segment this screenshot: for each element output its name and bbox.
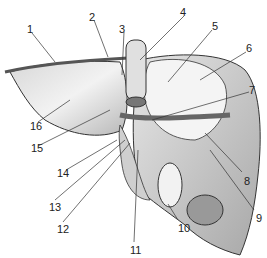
callout-3: 3 [119, 24, 125, 35]
callout-11: 11 [130, 245, 141, 256]
renal-impression [187, 195, 223, 225]
callout-10: 10 [178, 223, 190, 234]
liver-diagram: 1 2 3 4 5 6 7 8 9 10 11 12 13 14 15 16 [0, 0, 267, 258]
callout-8: 8 [244, 176, 250, 187]
callout-16: 16 [30, 121, 42, 132]
left-lobe [10, 61, 127, 135]
callout-9: 9 [256, 213, 262, 224]
callout-14: 14 [57, 168, 69, 179]
callout-15: 15 [31, 143, 43, 154]
callout-13: 13 [49, 202, 61, 213]
porta-hepatis [120, 115, 230, 118]
callout-5: 5 [212, 21, 218, 32]
callout-6: 6 [246, 43, 252, 54]
inferior-vena-cava [126, 40, 146, 100]
callout-1: 1 [27, 24, 33, 35]
callout-4: 4 [180, 7, 186, 18]
callout-2: 2 [89, 12, 95, 23]
callout-12: 12 [57, 224, 69, 235]
callout-7: 7 [249, 85, 255, 96]
gallbladder [158, 163, 182, 207]
